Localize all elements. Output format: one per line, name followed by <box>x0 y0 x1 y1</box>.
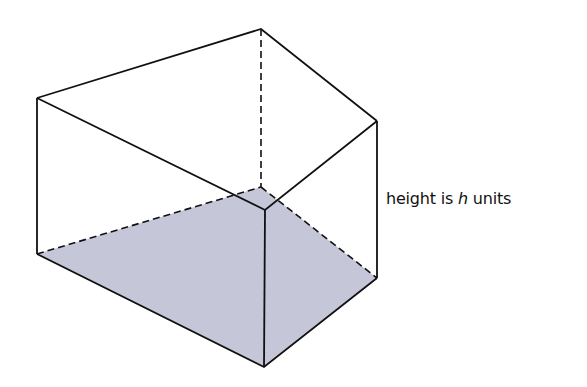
height-label-suffix: units <box>468 189 511 208</box>
shaded-base <box>37 187 377 367</box>
diagram-canvas: height is h units <box>0 0 587 387</box>
top-front-edges <box>37 98 377 210</box>
height-label-prefix: height is <box>386 189 458 208</box>
height-variable: h <box>458 189 468 208</box>
top-back-edges <box>37 29 377 121</box>
height-label: height is h units <box>386 189 511 208</box>
front-vertical-edge <box>264 210 265 367</box>
